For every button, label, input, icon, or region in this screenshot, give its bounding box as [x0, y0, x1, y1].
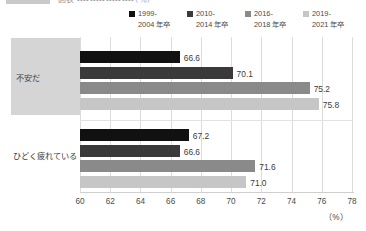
x-axis-unit-label: （%） — [324, 210, 347, 222]
category-label-exhausted: ひどく疲れている — [13, 149, 77, 161]
legend-label: 1999- 2004 年卒 — [138, 9, 171, 30]
legend-item-2010-2014[interactable]: 2010- 2014 年卒 — [187, 9, 245, 30]
legend-swatch-icon — [129, 11, 135, 17]
x-tick-label: 70 — [227, 197, 236, 206]
chart-legend: 1999- 2004 年卒 2010- 2014 年卒 2016- 2018 年… — [129, 9, 361, 35]
bar — [80, 67, 233, 79]
bar-value-label: 67.2 — [193, 131, 209, 141]
legend-label: 2016- 2018 年卒 — [254, 9, 287, 30]
legend-item-2019-2021[interactable]: 2019- 2021 年卒 — [303, 9, 361, 30]
legend-swatch-icon — [187, 11, 193, 17]
bar-value-label: 75.2 — [314, 84, 330, 94]
bar-value-label: 71.6 — [259, 162, 275, 172]
x-tick-label: 76 — [317, 197, 326, 206]
bar — [80, 160, 255, 172]
x-tick-label: 78 — [347, 197, 356, 206]
gridline — [322, 37, 323, 192]
bar-value-label: 70.1 — [237, 69, 253, 79]
bar — [80, 145, 180, 157]
legend-swatch-icon — [245, 11, 251, 17]
legend-label: 2010- 2014 年卒 — [196, 9, 229, 30]
legend-label: 2019- 2021 年卒 — [312, 9, 345, 30]
bar — [80, 82, 310, 94]
gridline — [292, 37, 293, 192]
plot-area: 66.670.175.275.867.266.671.671.0 — [80, 37, 352, 192]
bar-chart: 図表 ・・・・・・・・・・・・・・・・・・（％） 1999- 2004 年卒 2… — [0, 0, 366, 231]
x-tick-label: 68 — [196, 197, 205, 206]
bar-value-label: 71.0 — [250, 178, 266, 188]
x-axis-line — [80, 192, 354, 193]
group-separator — [80, 120, 352, 121]
x-tick-label: 72 — [257, 197, 266, 206]
bar-value-label: 66.6 — [184, 147, 200, 157]
legend-item-2016-2018[interactable]: 2016- 2018 年卒 — [245, 9, 303, 30]
bar-value-label: 75.8 — [323, 100, 339, 110]
legend-swatch-icon — [303, 11, 309, 17]
bar — [80, 98, 319, 110]
gridline — [352, 37, 353, 192]
x-tick-label: 60 — [75, 197, 84, 206]
bar — [80, 51, 180, 63]
legend-item-1999-2004[interactable]: 1999- 2004 年卒 — [129, 9, 187, 30]
category-label-anxious: 不安だ — [16, 71, 40, 83]
caption-tag — [6, 0, 50, 4]
x-tick-label: 62 — [106, 197, 115, 206]
x-tick-label: 74 — [287, 197, 296, 206]
x-tick-label: 64 — [136, 197, 145, 206]
x-tick-label: 66 — [166, 197, 175, 206]
bar — [80, 176, 246, 188]
caption-text: 図表 ・・・・・・・・・・・・・・・・・・（％） — [58, 0, 155, 4]
cut-off-caption: 図表 ・・・・・・・・・・・・・・・・・・（％） — [0, 0, 366, 7]
bar — [80, 129, 189, 141]
bar-value-label: 66.6 — [184, 53, 200, 63]
